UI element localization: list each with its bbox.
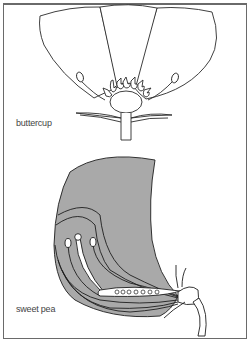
sweet-pea-anther-1: [65, 239, 71, 248]
sepal-right: [131, 114, 172, 118]
buttercup-stem: [121, 113, 131, 140]
sweet-pea-anther-2: [90, 238, 96, 247]
sweet-pea-stigma: [75, 234, 82, 241]
buttercup-flower: [40, 5, 217, 140]
sweet-pea-flower: [54, 157, 206, 336]
sweet-pea-stem: [193, 298, 206, 336]
flower-diagram: [0, 0, 251, 344]
label-buttercup: buttercup: [16, 118, 52, 128]
receptacle: [110, 91, 142, 113]
label-sweet-pea: sweet pea: [16, 304, 55, 314]
